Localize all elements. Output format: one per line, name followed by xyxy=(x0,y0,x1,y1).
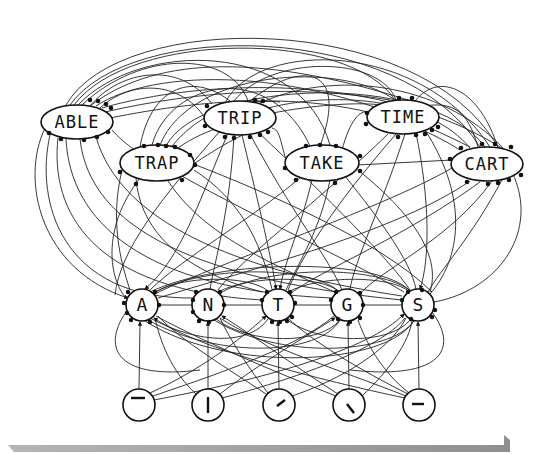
word-node-take[interactable]: TAKE xyxy=(285,145,359,181)
feature-node-vertical[interactable] xyxy=(192,389,224,421)
word-node-able[interactable]: ABLE xyxy=(41,105,113,139)
feature-letter-connections xyxy=(139,314,419,400)
word-node-time[interactable]: TIME xyxy=(367,100,439,134)
feature-node-diagonal-left[interactable] xyxy=(333,389,365,421)
word-label-take: TAKE xyxy=(300,153,345,173)
letter-label-n: N xyxy=(203,294,214,315)
word-node-cart[interactable]: CART xyxy=(451,147,523,181)
feature-level xyxy=(123,389,435,421)
word-label-trip: TRIP xyxy=(218,108,263,128)
word-node-trap[interactable]: TRAP xyxy=(120,145,194,181)
word-word-arcs xyxy=(66,38,505,165)
word-label-able: ABLE xyxy=(55,112,100,132)
feature-node-horizontal-middle[interactable] xyxy=(403,389,435,421)
word-letter-connections xyxy=(35,128,521,302)
feature-node-horizontal-top[interactable] xyxy=(123,389,155,421)
word-label-trap: TRAP xyxy=(135,153,180,173)
word-label-time: TIME xyxy=(381,107,426,127)
word-label-cart: CART xyxy=(465,154,510,174)
letter-label-t: T xyxy=(273,294,284,315)
feature-node-diagonal-right[interactable] xyxy=(263,389,295,421)
letter-node-a[interactable]: A xyxy=(126,289,158,321)
letter-label-g: G xyxy=(342,294,353,315)
base-shadow-bar xyxy=(8,435,510,452)
letter-label-s: S xyxy=(413,294,424,315)
network-diagram: ABLE TRAP TRIP TAKE TIME CART xyxy=(0,0,550,454)
letter-label-a: A xyxy=(137,294,148,315)
word-node-trip[interactable]: TRIP xyxy=(204,101,276,135)
